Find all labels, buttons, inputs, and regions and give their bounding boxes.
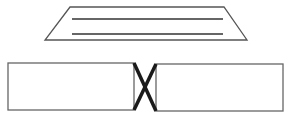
- diagram-canvas: [0, 0, 290, 122]
- left-rectangle: [8, 63, 134, 110]
- right-rectangle: [156, 64, 283, 111]
- trapezoid-plate: [45, 7, 247, 40]
